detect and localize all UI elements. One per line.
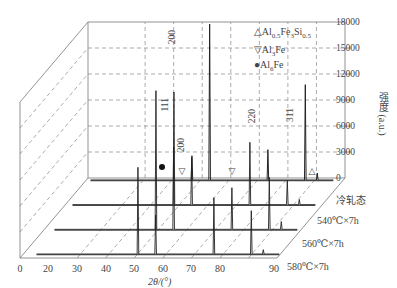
svg-text:▽: ▽ (179, 166, 186, 176)
x-tick: 60 (158, 263, 168, 274)
y-tick: 18000 (336, 17, 360, 27)
x-axis-label: 2θ/(°) (148, 276, 171, 287)
x-tick: 70 (186, 263, 196, 274)
legend-item-al05fe3si05: △Al0.5Fe3Si0.5 (254, 26, 311, 40)
peak-label-200-b: 200 (176, 138, 186, 152)
x-tick: 50 (129, 263, 139, 274)
peak-label-311: 311 (285, 108, 295, 122)
x-tick: 90 (269, 263, 279, 274)
peak-label-200: 200 (167, 30, 177, 44)
y-axis-label: 强度 (a.u.) (375, 92, 390, 136)
series-label-540: 540℃×7h (317, 215, 359, 226)
x-tick: 0 (18, 263, 23, 274)
y-tick: 9000 (336, 95, 355, 105)
phase-markers: ▽▽△ (159, 164, 316, 176)
x-tick: 40 (101, 263, 111, 274)
y-tick: 12000 (336, 69, 360, 79)
x-tick: 80 (215, 263, 225, 274)
legend-item-al3fe: ▽Al3Fe (254, 44, 285, 58)
peak-label-111: 111 (160, 98, 170, 112)
series-label-560: 560℃×7h (302, 238, 344, 249)
y-tick: 6000 (336, 121, 355, 131)
legend-item-al6fe: ●Al6Fe (254, 59, 284, 73)
x-tick: 20 (43, 263, 53, 274)
svg-text:△: △ (309, 166, 316, 176)
y-tick: 15000 (336, 43, 360, 53)
x-tick: 30 (72, 263, 82, 274)
y-tick: 3000 (336, 147, 355, 157)
series-label-cold-rolled: 冷轧态 (336, 192, 366, 207)
peak-label-220: 220 (247, 109, 257, 123)
svg-text:▽: ▽ (229, 166, 236, 176)
y-tick: 0 (336, 173, 341, 183)
series-label-580: 580℃×7h (287, 261, 329, 272)
